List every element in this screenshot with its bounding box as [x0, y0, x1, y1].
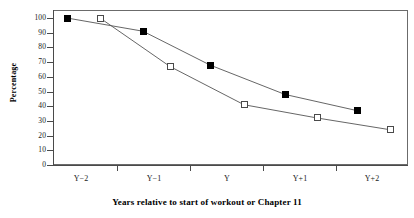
data-point-open-square	[241, 101, 248, 108]
data-point-filled-square	[354, 107, 361, 114]
data-point-open-square	[167, 63, 174, 70]
data-point-filled-square	[64, 15, 71, 22]
data-point-filled-square	[207, 62, 214, 69]
series-line-open	[100, 18, 390, 130]
data-point-open-square	[314, 114, 321, 121]
chart-figure: 0102030405060708090100 Y−2Y−1YY+1Y+2 Per…	[0, 0, 414, 218]
data-point-open-square	[97, 15, 104, 22]
data-point-filled-square	[282, 91, 289, 98]
x-axis-title: Years relative to start of workout or Ch…	[0, 197, 414, 207]
data-point-filled-square	[140, 28, 147, 35]
series-lines	[0, 0, 414, 218]
data-point-open-square	[387, 126, 394, 133]
